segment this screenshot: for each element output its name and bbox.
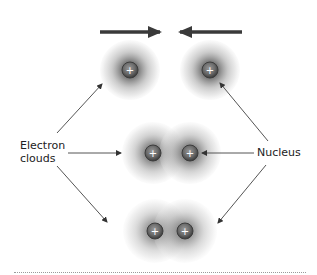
svg-text:+: + (186, 148, 194, 159)
svg-text:+: + (181, 226, 189, 237)
pointer-arrow-icon (57, 166, 107, 222)
svg-text:+: + (206, 65, 214, 76)
dotted-divider (14, 272, 306, 273)
pointer-arrow-icon (218, 165, 266, 223)
stage-bonded-molecule (123, 199, 217, 263)
svg-text:+: + (149, 148, 157, 159)
pointer-arrow-icon (57, 84, 102, 133)
nucleus-icon: + (145, 145, 161, 161)
stage-separate-atoms (100, 40, 240, 100)
nucleus-icon: + (182, 145, 198, 161)
nucleus-icon: + (122, 62, 138, 78)
nucleus-label: Nucleus (257, 146, 301, 159)
nucleus-icon: + (177, 223, 193, 239)
diagram-canvas: + + + + + + (0, 0, 317, 275)
svg-text:+: + (151, 226, 159, 237)
pointer-arrow-icon (220, 83, 268, 141)
electron-clouds-label: Electron clouds (20, 139, 80, 165)
bonding-diagram: + + + + + + (0, 0, 317, 275)
nucleus-icon: + (202, 62, 218, 78)
nucleus-icon: + (147, 223, 163, 239)
svg-text:+: + (126, 65, 134, 76)
